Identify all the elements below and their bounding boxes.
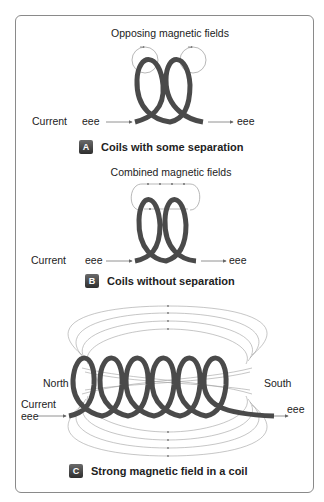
panel-a-badge: A xyxy=(79,140,93,154)
panel-c-electrons-out: eee xyxy=(287,403,305,415)
diagram-artwork xyxy=(0,0,324,502)
panel-c-coil xyxy=(38,358,288,416)
panel-a-coils xyxy=(106,47,233,122)
panel-c-south-label: South xyxy=(264,377,291,389)
panel-c-caption-text: Strong magnetic field in a coil xyxy=(91,465,247,477)
panel-b-caption-text: Coils without separation xyxy=(107,275,235,287)
panel-b-current-label: Current xyxy=(31,254,66,266)
panel-c-electrons-in: eee xyxy=(21,410,39,422)
panel-b-coils xyxy=(106,183,226,261)
panel-c-field-arrows xyxy=(167,305,169,457)
panel-a-electrons-in: eee xyxy=(82,115,100,127)
panel-a-title: Opposing magnetic fields xyxy=(111,27,229,39)
panel-c-current-label: Current xyxy=(21,398,56,410)
panel-a-electrons-out: eee xyxy=(237,115,255,127)
panel-c-badge: C xyxy=(69,464,83,478)
panel-b-title: Combined magnetic fields xyxy=(111,166,232,178)
panel-b-badge: B xyxy=(85,274,99,288)
panel-a-caption-text: Coils with some separation xyxy=(101,141,243,153)
panel-b-electrons-out: eee xyxy=(229,254,247,266)
panel-b-electrons-in: eee xyxy=(85,254,103,266)
panel-c-north-label: North xyxy=(43,377,69,389)
panel-b-caption: B Coils without separation xyxy=(85,274,235,288)
panel-a-current-label: Current xyxy=(32,115,67,127)
panel-c-caption: C Strong magnetic field in a coil xyxy=(69,464,247,478)
panel-a-caption: A Coils with some separation xyxy=(79,140,243,154)
